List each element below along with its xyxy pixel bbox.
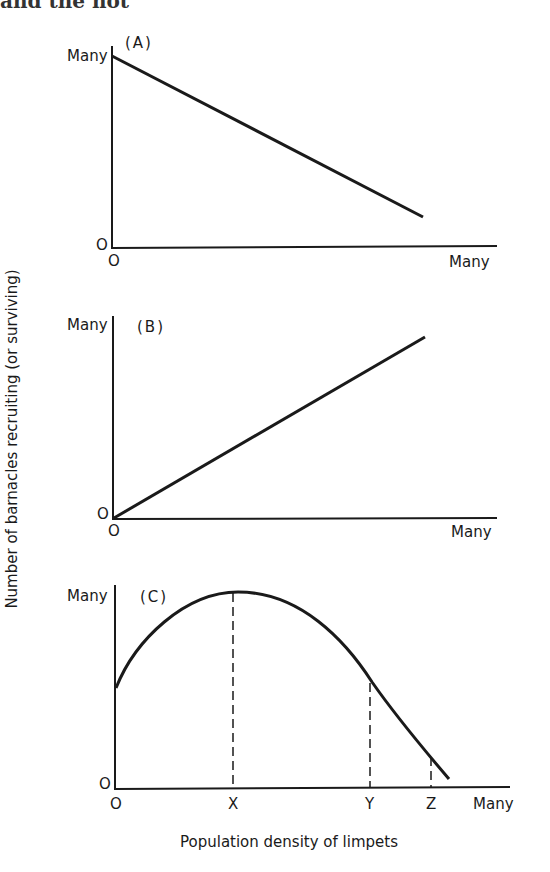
- panel-b-y-max-label: Many: [67, 318, 108, 333]
- panel-c-x-label-y: Y: [365, 797, 374, 812]
- panel-c-y-max-label: Many: [67, 589, 108, 604]
- panel-c-reference-lines: [233, 593, 431, 788]
- panel-a-y-zero-label: O: [96, 238, 108, 253]
- panel-a-x-max-label: Many: [449, 255, 490, 270]
- x-axis-title: Population density of limpets: [180, 833, 398, 851]
- chart-figure: [0, 0, 550, 872]
- panel-c-x-max-label: Many: [473, 797, 514, 812]
- panel-a-x-zero-label: O: [108, 254, 120, 269]
- panel-a-axes: [111, 46, 497, 249]
- panel-c-x-label-z: Z: [426, 797, 436, 812]
- panel-b-line: [114, 337, 425, 518]
- y-axis-title: Number of barnacles recruiting (or survi…: [3, 269, 21, 609]
- panel-b-axes: [112, 316, 497, 520]
- panel-c-x-label-x: X: [228, 797, 238, 812]
- panel-c-curve: [116, 592, 449, 779]
- panel-c-x-zero-label: O: [110, 797, 122, 812]
- panel-b-y-zero-label: O: [97, 507, 109, 522]
- panel-b-x-max-label: Many: [451, 525, 492, 540]
- panel-c-y-zero-label: O: [99, 777, 111, 792]
- panel-c-title: (C): [140, 588, 168, 606]
- panel-b-title: (B): [137, 318, 165, 336]
- panel-a-line: [112, 56, 423, 217]
- panel-a-y-max-label: Many: [67, 49, 108, 64]
- panel-b-x-zero-label: O: [108, 524, 120, 539]
- panel-a-title: (A): [125, 34, 153, 52]
